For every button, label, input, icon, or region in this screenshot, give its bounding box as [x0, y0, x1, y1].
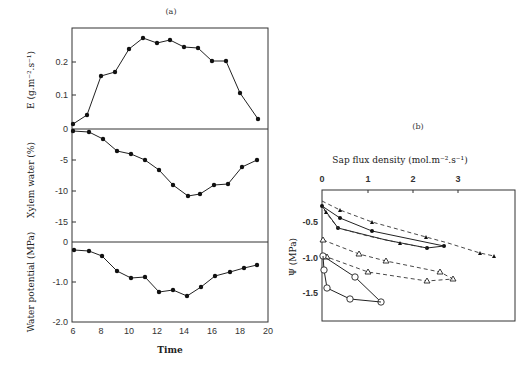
b-filled-triangle-dashed-1 — [322, 201, 496, 258]
svg-text:1: 1 — [365, 174, 370, 184]
e-series — [71, 36, 260, 126]
svg-text:-5: -5 — [60, 155, 68, 165]
svg-text:16: 16 — [207, 326, 217, 336]
panel-a-title: (a) — [165, 7, 176, 16]
time-xlabel: Time — [157, 345, 183, 355]
panel-a-frames — [72, 28, 268, 322]
b-filled-circle-solid-2 — [322, 206, 444, 250]
e-ylabel: E (g.m⁻².s⁻¹) — [26, 51, 36, 109]
svg-text:12: 12 — [152, 326, 162, 336]
b-open-triangle-dashed-1 — [320, 237, 456, 281]
svg-text:14: 14 — [179, 326, 189, 336]
figure-canvas: (a) 0.2 0.1 0 E (g.m⁻².s⁻¹) -5 -10 -15 X… — [0, 0, 532, 369]
svg-text:2: 2 — [410, 174, 415, 184]
svg-text:3: 3 — [455, 174, 460, 184]
e-yaxis: 0.2 0.1 0 E (g.m⁻².s⁻¹) — [26, 51, 76, 134]
svg-text:10: 10 — [124, 326, 134, 336]
svg-text:-1.0: -1.0 — [302, 253, 318, 263]
svg-text:8: 8 — [98, 326, 103, 336]
svg-text:-0.5: -0.5 — [302, 217, 318, 227]
svg-text:-2.0: -2.0 — [52, 317, 68, 327]
svg-text:0: 0 — [319, 174, 324, 184]
e-tick-0: 0 — [63, 124, 68, 134]
svg-text:-1.0: -1.0 — [52, 277, 68, 287]
psi-ylabel: Ψ (MPa) — [288, 238, 298, 276]
svg-text:20: 20 — [263, 326, 273, 336]
panel-b-title: (b) — [412, 122, 423, 131]
xylem-ylabel: Xylem water (%) — [26, 142, 36, 218]
svg-text:18: 18 — [235, 326, 245, 336]
wp-ylabel: Water potential (MPa) — [26, 232, 36, 333]
sap-flux-xlabel: Sap flux density (mol.m⁻².s⁻¹) — [332, 155, 467, 165]
wp-yaxis: 0 -1.0 -2.0 Water potential (MPa) — [26, 232, 76, 333]
svg-text:6: 6 — [70, 326, 75, 336]
water-potential-series — [72, 248, 259, 298]
e-tick-0.2: 0.2 — [55, 57, 68, 67]
time-xaxis: 6 8 10 12 14 16 18 20 Time — [70, 326, 273, 355]
svg-text:0: 0 — [63, 237, 68, 247]
panel-b-axes: 0 1 2 3 -0.5 -1.0 -1.5 Ψ (MPa) — [288, 174, 515, 321]
xylem-yaxis: -5 -10 -15 Xylem water (%) — [26, 142, 76, 227]
xylem-series — [71, 129, 259, 198]
svg-text:-1.5: -1.5 — [302, 288, 318, 298]
e-tick-0.1: 0.1 — [55, 90, 68, 100]
svg-text:-10: -10 — [55, 186, 68, 196]
b-open-circle-solid-2 — [321, 256, 381, 302]
svg-text:-15: -15 — [55, 217, 68, 227]
panel-a-frame — [72, 28, 268, 322]
